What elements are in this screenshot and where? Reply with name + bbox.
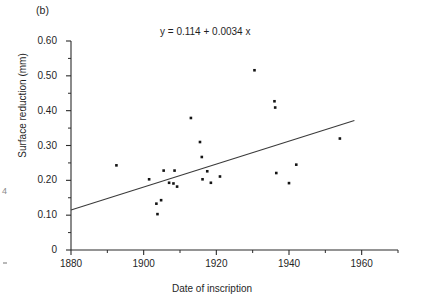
data-point (148, 178, 151, 181)
data-point (288, 182, 291, 185)
x-tick-label: 1900 (122, 259, 166, 269)
regression-fit-line (71, 120, 354, 210)
data-point (168, 181, 171, 184)
regression-line-group (71, 120, 354, 210)
y-tick-label: 0.50 (17, 71, 57, 81)
x-axis-title: Date of inscription (0, 283, 424, 294)
regression-equation-annotation: y = 0.114 + 0.0034 x (160, 26, 250, 37)
data-point (115, 164, 118, 167)
y-tick-label: 0.20 (17, 175, 57, 185)
data-point (274, 106, 277, 109)
data-point (253, 69, 256, 72)
data-point (199, 141, 202, 144)
data-point (339, 137, 342, 140)
scan-artifact-mark: 4 (2, 186, 7, 196)
y-tick-label: 0.40 (17, 106, 57, 116)
axes-group (66, 41, 398, 255)
x-tick-label: 1960 (340, 259, 384, 269)
y-tick-label: 0 (17, 245, 57, 255)
data-point (155, 202, 158, 205)
data-point (201, 178, 204, 181)
x-tick-label: 1940 (267, 259, 311, 269)
data-point (206, 170, 209, 173)
panel-label: (b) (36, 4, 49, 16)
data-points-group (115, 69, 341, 215)
scan-artifact-speck (3, 262, 7, 264)
x-tick-label: 1920 (194, 259, 238, 269)
data-point (176, 185, 179, 188)
data-point (201, 156, 204, 159)
data-point (156, 213, 159, 216)
data-point (190, 117, 193, 120)
y-tick-label: 0.30 (17, 141, 57, 151)
data-point (210, 181, 213, 184)
y-tick-label: 0.10 (17, 210, 57, 220)
data-point (162, 169, 165, 172)
data-point (219, 175, 222, 178)
data-point (275, 172, 278, 175)
data-point (295, 163, 298, 166)
data-point (173, 169, 176, 172)
y-tick-label: 0.60 (17, 36, 57, 46)
data-point (172, 182, 175, 185)
x-tick-label: 1880 (49, 259, 93, 269)
figure-panel-b: (b) y = 0.114 + 0.0034 x Surface reducti… (0, 0, 424, 304)
data-point (160, 199, 163, 202)
data-point (273, 100, 276, 103)
